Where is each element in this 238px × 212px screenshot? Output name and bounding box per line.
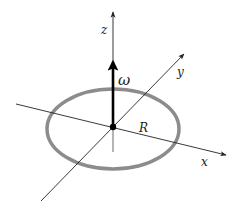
z-axis-label: z	[100, 23, 108, 37]
ring-rotation-diagram: z y x ω R	[0, 0, 238, 212]
radius-label: R	[138, 121, 148, 135]
y-axis-label: y	[176, 65, 184, 79]
origin-dot	[110, 124, 116, 130]
x-axis-label: x	[201, 155, 208, 169]
omega-label: ω	[118, 71, 130, 89]
